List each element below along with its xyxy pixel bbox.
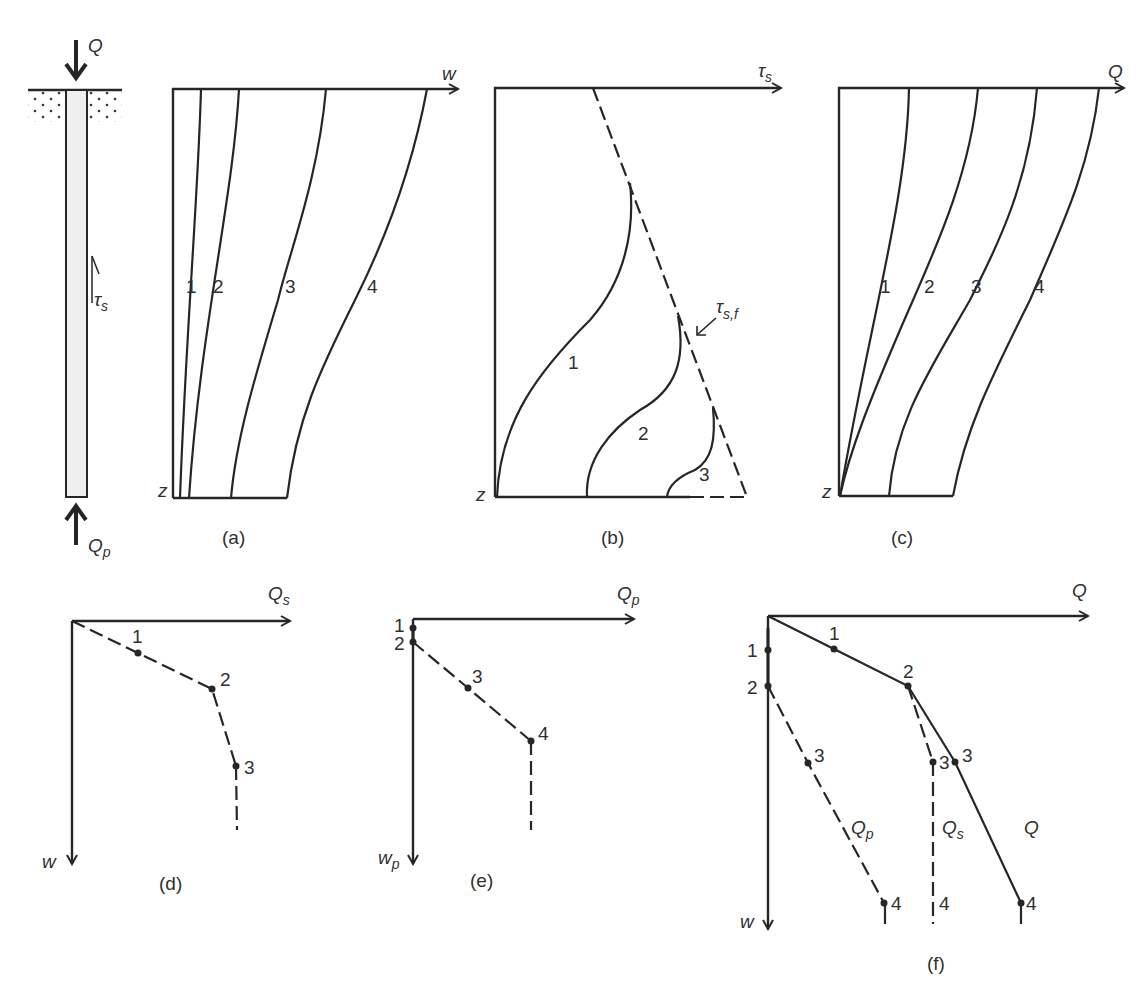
panel-d-point-3-label: 3: [244, 757, 255, 778]
panel-d-x-axis-label: Qs: [268, 583, 290, 608]
panel-f-qp-point-3: [805, 760, 812, 767]
panel-b-curve-3-label: 3: [699, 464, 710, 485]
panel-a-curve-4-label: 4: [367, 276, 378, 297]
panel-f-y-axis-label: w: [740, 911, 755, 932]
panel-d-y-axis-label: w: [42, 851, 57, 872]
panel-c-curve-2: [840, 88, 978, 496]
panel-f-axis-point-1-label: 1: [747, 640, 758, 661]
panel-b-caption: (b): [601, 527, 624, 548]
panel-c-curve-3: [889, 88, 1037, 496]
panel-f-qp-point-3-label: 3: [814, 745, 825, 766]
panel-f-q-line-label: Q: [1024, 817, 1039, 838]
panel-c-curve-4-label: 4: [1034, 276, 1045, 297]
tip-load-arrow-icon: [66, 506, 86, 545]
panel-d-qs-line: [72, 621, 236, 766]
panel-e-point-4-label: 4: [538, 723, 549, 744]
panel-a-caption: (a): [222, 527, 245, 548]
panel-e-y-axis-label: wp: [378, 847, 400, 872]
panel-a-x-axis-label: w: [442, 63, 457, 84]
panel-c-curve-3-label: 3: [971, 276, 982, 297]
panel-b-curve-2: [587, 316, 681, 497]
panel-d-point-1-label: 1: [132, 626, 143, 647]
panel-e-point-4: [528, 738, 535, 745]
panel-f-q-point-1: [831, 646, 838, 653]
panel-e-qp-line: [413, 642, 531, 741]
panel-e-point-2: [410, 639, 417, 646]
panel-e-point-2-label: 2: [394, 633, 405, 654]
panel-f-qp-point-4: [881, 900, 888, 907]
panel-b-curve-1-label: 1: [568, 352, 579, 373]
panel-c-curve-1: [840, 88, 909, 496]
panel-c-x-axis-label: Q: [1108, 61, 1123, 82]
panel-a-curve-4: [287, 89, 427, 498]
panel-c-axial-load-profile: Q z 1 2 3 4 (c): [821, 61, 1124, 548]
panel-d-qs-tail: [236, 766, 237, 830]
panel-d-point-3: [233, 763, 240, 770]
panel-d-caption: (d): [159, 873, 182, 894]
panel-d-point-2: [209, 686, 216, 693]
panel-b-curve-2-label: 2: [638, 423, 649, 444]
pile-shaft: [66, 90, 87, 497]
panel-f-x-axis-label: Q: [1072, 580, 1087, 601]
panel-a-curve-3: [231, 89, 326, 498]
panel-e-point-1: [410, 625, 417, 632]
panel-f-q-point-4: [1018, 900, 1025, 907]
panel-d-shaft-load-displacement: Qs w 1 2 3 (d): [42, 583, 290, 894]
panel-f-q-point-4-label: 4: [1026, 893, 1037, 914]
panel-f-q-point-1-label: 1: [829, 623, 840, 644]
panel-b-limit-label: τs,f: [716, 296, 740, 322]
panel-c-curve-2-label: 2: [924, 276, 935, 297]
panel-e-point-3-label: 3: [472, 666, 483, 687]
panel-f-total-load-displacement: Q w 1 2 1 2 3 4 3 4 3 4 Qp Qs Q (f): [740, 580, 1088, 974]
panel-e-caption: (e): [470, 870, 493, 891]
panel-f-axis-point-1: [765, 647, 772, 654]
panel-a-curve-3-label: 3: [285, 276, 296, 297]
panel-f-qs-point-3: [930, 759, 937, 766]
panel-b-x-axis-label: τs: [758, 60, 772, 85]
panel-e-point-3: [465, 685, 472, 692]
tip-load-label: Qp: [88, 535, 111, 560]
top-load-label: Q: [88, 35, 103, 56]
panel-f-axis-point-2-label: 2: [747, 677, 758, 698]
panel-f-qp-line: [768, 686, 884, 903]
panel-f-qs-point-4-label: 4: [939, 893, 950, 914]
panel-d-point-2-label: 2: [220, 669, 231, 690]
panel-c-curve-1-label: 1: [880, 276, 891, 297]
panel-a-z-axis-label: z: [157, 480, 168, 501]
panel-c-z-axis-label: z: [821, 481, 832, 502]
panel-b-shaft-stress-profile: τs z 1 2 3 τs,f (b): [475, 60, 781, 548]
shaft-stress-label: τs: [94, 289, 108, 314]
panel-f-q-point-2-label: 2: [903, 661, 914, 682]
panel-b-limit-line: [593, 88, 747, 497]
panel-f-caption: (f): [927, 953, 945, 974]
panel-f-q-point-2: [905, 683, 912, 690]
pile-sketch: Q τs Qp: [28, 35, 122, 560]
panel-f-q-point-3-label: 3: [962, 745, 973, 766]
panel-f-q-point-3: [952, 759, 959, 766]
panel-b-z-axis-label: z: [475, 484, 486, 505]
top-load-arrow-icon: [66, 40, 86, 78]
panel-a-displacement-profile: w z 1 2 3 4 (a): [157, 63, 458, 548]
panel-c-caption: (c): [891, 527, 913, 548]
panel-a-curve-2-label: 2: [213, 276, 224, 297]
panel-f-qs-line-label: Qs: [942, 817, 964, 842]
panel-f-axis-point-2: [765, 683, 772, 690]
limit-stress-pointer-arrow-icon: [697, 318, 716, 335]
panel-f-qp-line-label: Qp: [851, 817, 874, 842]
pile-load-transfer-figure: Q τs Qp w z 1 2 3 4 (a) τs z: [0, 0, 1140, 1004]
panel-f-qp-point-4-label: 4: [891, 893, 902, 914]
panel-b-curve-1: [497, 183, 631, 497]
panel-e-x-axis-label: Qp: [617, 583, 640, 608]
panel-d-point-1: [135, 650, 142, 657]
panel-f-qs-point-3-label: 3: [939, 752, 950, 773]
panel-a-curve-1-label: 1: [186, 276, 197, 297]
panel-e-tip-load-displacement: Qp wp 1 2 3 4 (e): [378, 583, 640, 891]
